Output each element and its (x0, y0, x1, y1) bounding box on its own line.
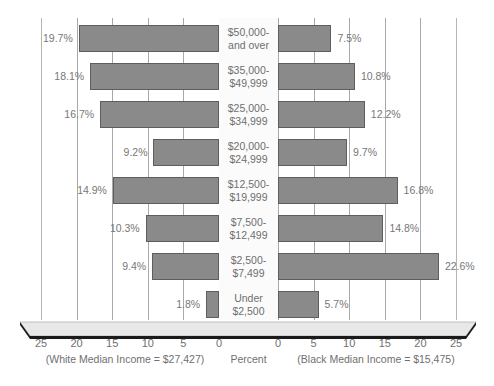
bar-row: 14.9%16.8% (0, 172, 494, 210)
bar-white (113, 177, 219, 204)
value-label-black: 16.8% (404, 182, 452, 198)
bar-white (206, 291, 219, 318)
caption-percent-axis-title: Percent (219, 352, 278, 367)
tick-label-left-20: 20 (62, 336, 92, 350)
bar-black (278, 177, 398, 204)
tick-label-left-5: 5 (168, 336, 198, 350)
bar-row: 9.4%22.6% (0, 248, 494, 286)
tick-label-right-20: 20 (405, 336, 435, 350)
value-label-white: 19.7% (25, 30, 73, 46)
value-label-white: 14.9% (59, 182, 107, 198)
tick-label-right-0: 0 (263, 336, 293, 350)
tick-label-right-15: 15 (370, 336, 400, 350)
bar-black (278, 63, 355, 90)
tick-label-right-10: 10 (334, 336, 364, 350)
bar-black (278, 101, 365, 128)
bar-black (278, 25, 331, 52)
bar-white (153, 139, 219, 166)
tick-label-left-0: 0 (204, 336, 234, 350)
tick-label-left-15: 15 (97, 336, 127, 350)
value-label-white: 1.8% (152, 296, 200, 312)
bar-rows: 19.7%7.5%18.1%10.8%16.7%12.2%9.2%9.7%14.… (0, 18, 494, 320)
value-label-white: 18.1% (36, 68, 84, 84)
value-label-black: 9.7% (353, 144, 401, 160)
bar-white (90, 63, 219, 90)
bar-row: 9.2%9.7% (0, 134, 494, 172)
value-label-white: 10.3% (92, 220, 140, 236)
value-label-black: 10.8% (361, 68, 409, 84)
value-label-black: 14.8% (389, 220, 437, 236)
value-label-black: 5.7% (325, 296, 373, 312)
plot-area: $50,000-and over$35,000-$49,999$25,000-$… (0, 18, 494, 320)
bar-black (278, 215, 383, 242)
bar-row: 10.3%14.8% (0, 210, 494, 248)
value-label-white: 16.7% (46, 106, 94, 122)
income-distribution-chart: $50,000-and over$35,000-$49,999$25,000-$… (0, 0, 494, 386)
tick-label-right-25: 25 (441, 336, 471, 350)
bar-row: 16.7%12.2% (0, 96, 494, 134)
axis-captions: (White Median Income = $27,427) Percent … (0, 352, 494, 370)
bar-white (152, 253, 219, 280)
bar-row: 19.7%7.5% (0, 20, 494, 58)
bar-white (146, 215, 219, 242)
bar-white (79, 25, 219, 52)
value-label-black: 12.2% (371, 106, 419, 122)
value-label-white: 9.2% (99, 144, 147, 160)
caption-black-median-income: (Black Median Income = $15,475) (272, 352, 480, 367)
bar-black (278, 291, 319, 318)
caption-white-median-income: (White Median Income = $27,427) (30, 352, 220, 367)
value-label-black: 22.6% (445, 258, 493, 274)
tick-label-left-10: 10 (133, 336, 163, 350)
bar-black (278, 139, 347, 166)
tick-label-right-5: 5 (299, 336, 329, 350)
tick-label-left-25: 25 (26, 336, 56, 350)
value-label-white: 9.4% (98, 258, 146, 274)
value-label-black: 7.5% (337, 30, 385, 46)
bar-black (278, 253, 439, 280)
bar-row: 18.1%10.8% (0, 58, 494, 96)
bar-white (100, 101, 219, 128)
